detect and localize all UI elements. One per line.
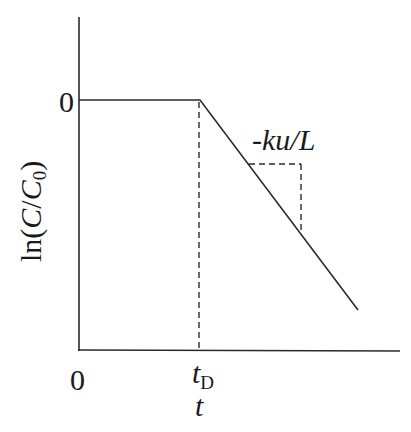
slope-annotation: -ku/L <box>252 123 315 156</box>
x-axis-line <box>78 350 400 351</box>
y-label-C: C <box>14 208 47 229</box>
y-tick-zero: 0 <box>59 85 74 118</box>
x-tick-zero: 0 <box>70 363 85 396</box>
y-axis-label-group: ln(C/C0) <box>14 161 50 262</box>
x-tick-tD: tD <box>192 356 214 393</box>
slope-annotation-text: ku/L <box>262 123 315 156</box>
y-label-C0: C <box>14 179 47 200</box>
x-axis-label: t <box>195 389 204 422</box>
y-axis-label: ln(C/C0) <box>14 161 50 262</box>
concentration-curve <box>79 100 358 310</box>
diagram-canvas: 0 0 tD t -ku/L ln(C/C0) <box>0 0 411 432</box>
y-label-suffix: ) <box>14 161 48 171</box>
slope-annotation-minus: - <box>252 123 262 156</box>
y-label-C0-subscript: 0 <box>29 171 50 181</box>
y-label-prefix: ln( <box>14 229 48 262</box>
